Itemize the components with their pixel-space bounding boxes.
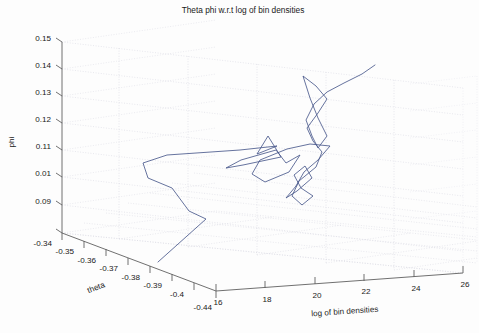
z-tick-label-2: 0.13: [35, 88, 51, 97]
x-tick-label-7: -0.44: [194, 303, 213, 312]
x-tick-label-5: -0.39: [144, 281, 163, 290]
z-tick-label-4: 0.11: [36, 142, 52, 151]
y-tick-label-3: 22: [361, 287, 371, 296]
x-tick-label-4: -0.38: [122, 273, 141, 282]
y-tick-label-5: 26: [460, 280, 470, 289]
y-tick-label-4: 24: [411, 284, 421, 293]
z-tick-label-5: 0.01: [35, 169, 51, 178]
y-tick-label-2: 20: [312, 291, 322, 300]
figure-window: Theta phi w.r.t log of bin densities 0.1…: [0, 0, 479, 333]
x-tick-label-1: -0.35: [56, 247, 75, 256]
z-tick-label-1: 0.14: [35, 61, 51, 70]
plot-3d-canvas: Theta phi w.r.t log of bin densities 0.1…: [0, 0, 479, 333]
figure-background: [0, 0, 479, 333]
z-tick-label-6: 0.09: [35, 197, 51, 206]
x-tick-label-6: -0.4: [170, 290, 184, 299]
x-tick-label-2: -0.36: [78, 256, 97, 265]
z-tick-label-3: 0.12: [35, 115, 51, 124]
y-tick-label-1: 18: [262, 295, 272, 304]
x-tick-label-0: -0.34: [34, 239, 53, 248]
z-axis-label: phi: [7, 136, 16, 147]
x-tick-label-3: -0.37: [100, 264, 119, 273]
chart-title: Theta phi w.r.t log of bin densities: [182, 5, 305, 15]
y-tick-label-0: 16: [213, 298, 223, 307]
z-tick-label-0: 0.15: [35, 34, 51, 43]
